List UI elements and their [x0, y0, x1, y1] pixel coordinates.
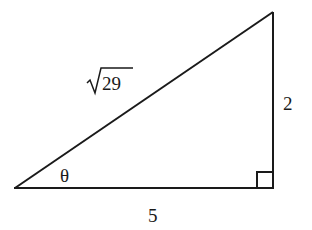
right-angle-marker [257, 172, 273, 188]
hypotenuse-side [15, 12, 273, 188]
triangle [14, 12, 274, 188]
hypotenuse-label: 29 [87, 68, 133, 94]
vertical-leg-label: 2 [283, 93, 293, 114]
hypotenuse-value: 29 [102, 73, 121, 94]
angle-theta-label: θ [60, 165, 69, 186]
horizontal-leg-label: 5 [148, 205, 158, 226]
right-triangle-diagram: 29 2 5 θ [0, 0, 312, 230]
